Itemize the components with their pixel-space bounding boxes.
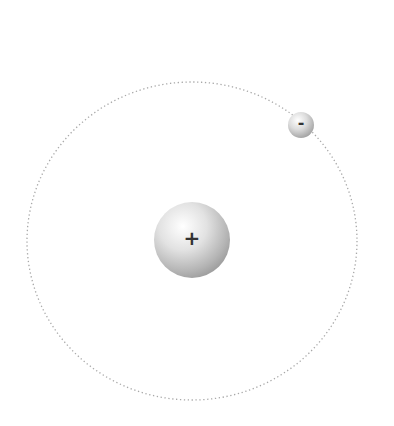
negative-charge-label: -: [292, 115, 310, 131]
atom-diagram: [0, 0, 394, 426]
positive-charge-label: +: [178, 228, 206, 248]
